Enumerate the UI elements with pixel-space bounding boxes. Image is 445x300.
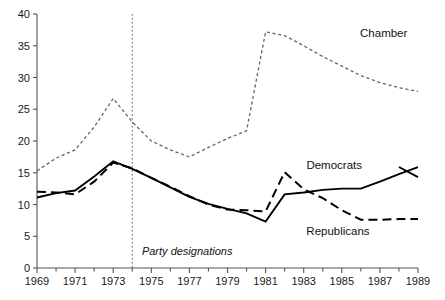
x-tick-label: 1983 — [291, 275, 315, 287]
x-tick-label: 1979 — [215, 275, 239, 287]
y-tick-label: 5 — [24, 230, 30, 242]
y-tick-label: 15 — [18, 167, 30, 179]
y-tick-label: 40 — [18, 8, 30, 20]
series-label-republicans: Republicans — [306, 225, 370, 237]
y-tick-label: 0 — [24, 262, 30, 274]
x-tick-label: 1989 — [406, 275, 430, 287]
x-tick-label: 1975 — [139, 275, 163, 287]
y-tick-label: 20 — [18, 135, 30, 147]
x-tick-label: 1987 — [368, 275, 392, 287]
y-tick-label: 25 — [18, 103, 30, 115]
series-label-democrats: Democrats — [306, 159, 362, 171]
x-tick-label: 1973 — [101, 275, 125, 287]
x-tick-label: 1977 — [177, 275, 201, 287]
y-tick-label: 35 — [18, 40, 30, 52]
x-tick-label: 1985 — [330, 275, 354, 287]
chart-container: 0510152025303540196919711973197519771979… — [0, 0, 445, 300]
x-tick-label: 1969 — [25, 275, 49, 287]
line-chart: 0510152025303540196919711973197519771979… — [0, 0, 445, 300]
x-tick-label: 1981 — [253, 275, 277, 287]
party-designations-label: Party designations — [142, 245, 233, 257]
x-tick-label: 1971 — [63, 275, 87, 287]
y-tick-label: 30 — [18, 72, 30, 84]
y-tick-label: 10 — [18, 199, 30, 211]
series-label-chamber: Chamber — [360, 27, 407, 39]
